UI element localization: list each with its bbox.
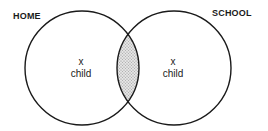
school-set-label: SCHOOL: [212, 8, 252, 18]
school-child-marker: x: [153, 56, 193, 67]
home-child-label: child: [61, 68, 101, 79]
home-child-marker: x: [61, 56, 101, 67]
home-set-label: HOME: [13, 11, 41, 21]
school-child-label: child: [153, 68, 193, 79]
